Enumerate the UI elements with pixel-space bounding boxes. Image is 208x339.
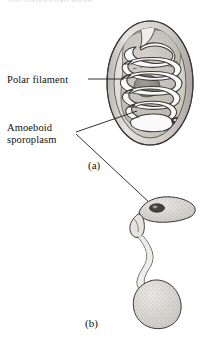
amoeboid-nucleus (150, 204, 165, 212)
figure-root: microsporidian spore (0, 0, 208, 339)
label-amoeboid-sporoplasm: Amoeboid sporoplasm (7, 122, 56, 146)
caption-panel-b: (b) (85, 317, 98, 329)
panel-a-spore (107, 21, 193, 145)
label-amoeboid-line1: Amoeboid (7, 122, 56, 134)
caption-panel-a: (a) (88, 159, 100, 171)
microsporidian-spore-diagram (0, 0, 208, 339)
panel-b-discharged-spore (128, 190, 202, 333)
label-amoeboid-line2: sporoplasm (7, 134, 56, 146)
label-polar-filament: Polar filament (7, 74, 68, 86)
empty-spore-shell (130, 214, 145, 238)
